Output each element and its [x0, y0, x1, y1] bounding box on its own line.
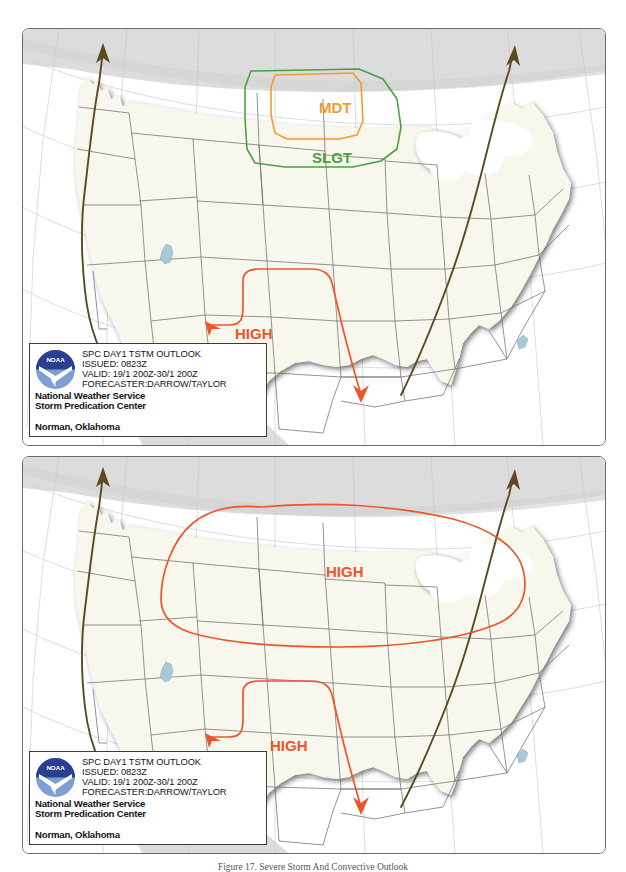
legend-lower-bottom: National Weather Service Storm Predicati… [35, 799, 260, 841]
risk-label-slgt: SLGT [312, 149, 352, 166]
spc-day1-outlook-map-bottom: HIGH HIGH NOAA SPC DAY1 TSTM OUTLOOK [22, 456, 606, 854]
legend-center-line-top: Storm Predication Center Norman, Oklahom… [35, 401, 260, 433]
legend-issued-bottom: ISSUED: 0823Z [82, 767, 226, 777]
noaa-logo-icon-bottom: NOAA [35, 757, 76, 798]
noaa-logo-text: NOAA [46, 356, 65, 363]
legend-forecaster-bottom: FORECASTER:DARROW/TAYLOR [82, 787, 226, 797]
noaa-logo-text-bottom: NOAA [46, 764, 65, 771]
legend-center-line-bottom: Storm Predication Center Norman, Oklahom… [35, 809, 260, 841]
legend-center-bottom: Storm Predication Center [35, 809, 260, 820]
risk-label-mdt: MDT [319, 99, 352, 116]
legend-upper-bottom: NOAA SPC DAY1 TSTM OUTLOOK ISSUED: 0823Z… [35, 756, 260, 798]
legend-valid-bottom: VALID: 19/1 200Z-30/1 200Z [82, 777, 226, 787]
legend-lower-top: National Weather Service Storm Predicati… [35, 391, 260, 433]
noaa-seal-icon-bottom: NOAA [35, 757, 76, 798]
legend-box-top: NOAA SPC DAY1 TSTM OUTLOOK ISSUED: 0823Z… [29, 343, 267, 437]
legend-upper-top: NOAA SPC DAY1 TSTM OUTLOOK ISSUED: 0823Z… [35, 348, 260, 390]
risk-label-high-top: HIGH [235, 325, 273, 342]
legend-center-top: Storm Predication Center [35, 401, 260, 412]
noaa-seal-icon: NOAA [35, 349, 76, 390]
legend-title-top: SPC DAY1 TSTM OUTLOOK [82, 349, 226, 359]
legend-forecaster-top: FORECASTER:DARROW/TAYLOR [82, 379, 226, 389]
noaa-logo-icon: NOAA [35, 349, 76, 390]
legend-title-bottom: SPC DAY1 TSTM OUTLOOK [82, 757, 226, 767]
risk-label-high-texas: HIGH [270, 737, 308, 754]
legend-box-bottom: NOAA SPC DAY1 TSTM OUTLOOK ISSUED: 0823Z… [29, 751, 267, 845]
risk-label-high-north: HIGH [326, 563, 364, 580]
legend-location-top: Norman, Oklahoma [35, 422, 260, 433]
legend-location-bottom: Norman, Oklahoma [35, 830, 260, 841]
spc-day1-outlook-map-top: MDT SLGT HIGH NOAA SPC DAY1 TST [22, 28, 606, 446]
legend-text-lines-bottom: SPC DAY1 TSTM OUTLOOK ISSUED: 0823Z VALI… [82, 756, 226, 797]
legend-issued-top: ISSUED: 0823Z [82, 359, 226, 369]
legend-valid-top: VALID: 19/1 200Z-30/1 200Z [82, 369, 226, 379]
figure-caption: Figure 17. Severe Storm And Convective O… [0, 862, 626, 872]
legend-text-lines-top: SPC DAY1 TSTM OUTLOOK ISSUED: 0823Z VALI… [82, 348, 226, 389]
